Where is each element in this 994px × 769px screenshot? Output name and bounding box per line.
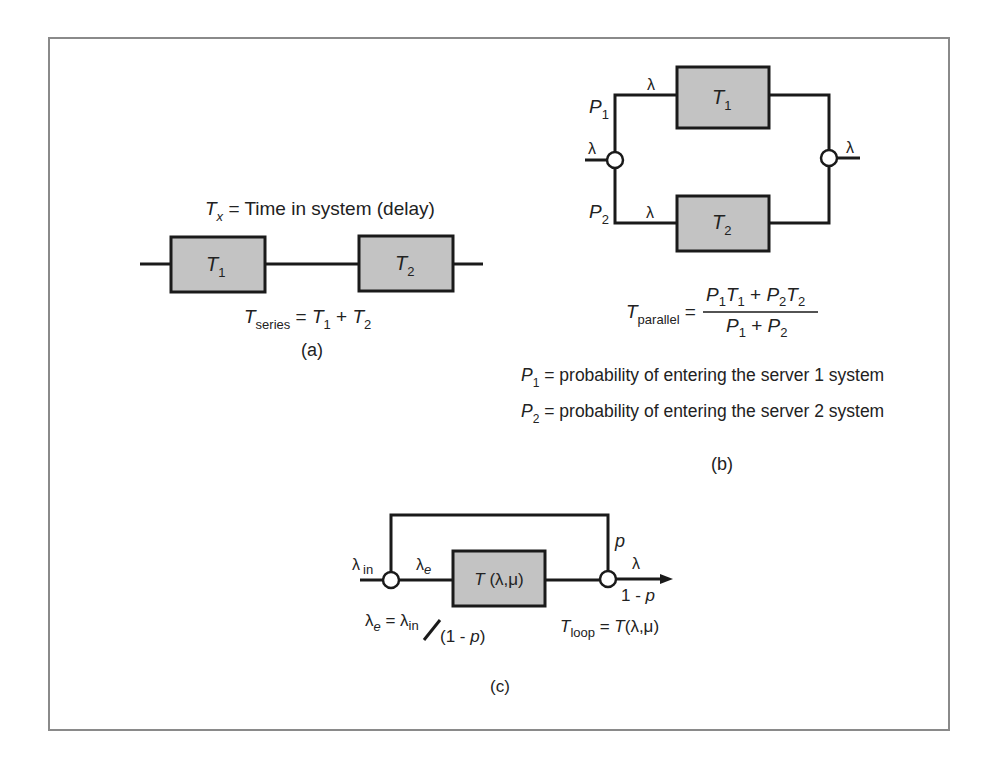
parallel-caption: (b) [711,454,733,474]
parallel-formula-numerator: P1T1 + P2T2 [706,284,805,309]
loop-input-label: λin [352,556,373,577]
parallel-output-label: λ [846,139,854,156]
parallel-branch-2-rate: λ [646,204,654,221]
loop-effective-rate-denominator: (1 - p) [440,627,485,646]
parallel-branch-1-out-wire [770,95,829,150]
loop-output-arrow-icon [660,574,673,584]
series-diagram: Tx = Time in system (delay) T1 T2 Tserie… [140,198,483,360]
parallel-merge-node [821,150,837,166]
series-header: Tx = Time in system (delay) [205,198,435,224]
loop-split-node [600,571,616,587]
parallel-branch-2-out-wire [770,166,829,223]
series-caption: (a) [301,340,323,360]
loop-time-equation: Tloop = T(λ,μ) [560,617,659,640]
loop-box-label: T (λ,μ) [474,570,523,589]
loop-join-node [383,572,399,588]
parallel-diagram: λ λ P1 λ P2 λ T1 T2 Tparallel = [521,67,884,474]
parallel-def-p2: P2 = probability of entering the server … [521,401,884,426]
parallel-p1-label: P1 [589,96,609,122]
loop-internal-rate-label: λe [416,556,431,577]
parallel-branch-1-rate: λ [647,76,655,93]
loop-feedback-prob-label: p [614,531,625,551]
parallel-input-label: λ [588,140,596,157]
parallel-formula-denominator: P1 + P2 [726,315,788,340]
parallel-formula-lhs: Tparallel = [626,301,696,327]
loop-diagram: λin λe T (λ,μ) p λ 1 - p λe = λin (1 - p… [352,515,673,696]
parallel-p2-label: P2 [589,201,609,227]
loop-division-slash [424,620,440,640]
queueing-network-figure: Tx = Time in system (delay) T1 T2 Tserie… [0,0,994,769]
loop-exit-prob-label: 1 - p [621,586,655,605]
parallel-split-node [607,152,623,168]
parallel-def-p1: P1 = probability of entering the server … [521,365,884,390]
loop-output-label: λ [632,555,640,572]
loop-effective-rate-equation: λe = λin [365,611,419,634]
series-formula: Tseries = T1 + T2 [244,306,371,332]
loop-caption: (c) [490,677,510,696]
parallel-branch-1-in-wire [615,95,676,152]
